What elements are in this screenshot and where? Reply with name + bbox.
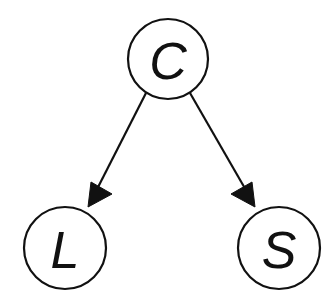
node-l-label: L bbox=[51, 221, 80, 279]
edge-c-to-l bbox=[88, 93, 146, 207]
node-l[interactable]: L bbox=[24, 207, 106, 289]
node-s-label: S bbox=[262, 221, 297, 279]
edge-c-to-s bbox=[190, 93, 255, 207]
edge-line-c-to-l bbox=[93, 93, 147, 198]
arrowhead-icon-c-to-l bbox=[88, 182, 112, 207]
node-c[interactable]: C bbox=[128, 19, 208, 99]
node-c-label: C bbox=[149, 32, 187, 90]
graph-svg: C L S bbox=[0, 0, 333, 307]
edge-line-c-to-s bbox=[190, 93, 251, 198]
diagram-canvas: C L S bbox=[0, 0, 333, 307]
node-s[interactable]: S bbox=[238, 207, 320, 289]
